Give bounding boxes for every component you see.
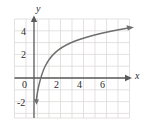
- log-curve-path: [36, 28, 129, 102]
- x-tick-label-6: 6: [100, 80, 105, 90]
- x-axis: [15, 75, 133, 81]
- x-axis-arrowhead: [125, 75, 132, 81]
- graph-figure: 4 2 0 -2 2 4 6 y x: [0, 0, 145, 126]
- x-tick-label-2: 2: [54, 80, 59, 90]
- y-axis-label: y: [36, 4, 40, 14]
- x-tick-label-4: 4: [77, 80, 82, 90]
- origin-label: 0: [22, 80, 27, 90]
- grid-lines: [15, 19, 130, 118]
- x-axis-label: x: [135, 71, 139, 81]
- y-tick-label-minus-2: -2: [17, 98, 25, 108]
- y-tick-label-4: 4: [21, 27, 26, 37]
- curve-arrowhead: [127, 25, 135, 30]
- y-tick-label-2: 2: [21, 50, 26, 60]
